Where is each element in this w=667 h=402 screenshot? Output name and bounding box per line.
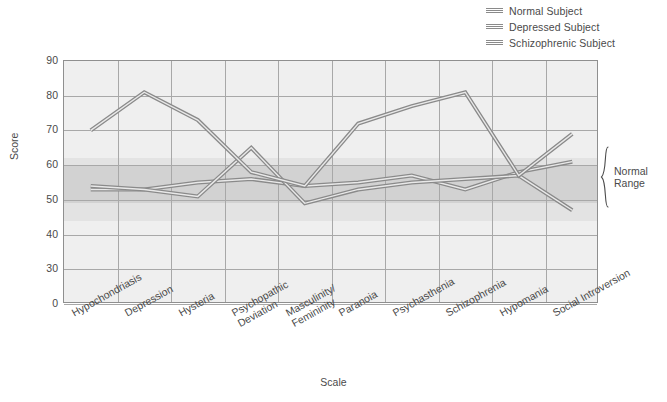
normal-range-label-line2: Range (614, 177, 648, 190)
legend-swatch-icon (486, 8, 503, 13)
legend-item: Normal Subject (486, 4, 615, 17)
series-line-inner (91, 92, 573, 186)
y-axis-tick-label: 30 (18, 262, 58, 274)
y-axis-tick-label: 70 (18, 123, 58, 135)
legend-label: Normal Subject (509, 5, 582, 17)
legend-item: Depressed Subject (486, 20, 615, 33)
x-axis-title: Scale (0, 376, 667, 388)
chart-legend: Normal Subject Depressed Subject Schizop… (486, 4, 615, 49)
series-lines (64, 61, 599, 304)
normal-range-label-line1: Normal (614, 165, 648, 178)
normal-range-label: Normal Range (614, 165, 648, 190)
y-axis-tick-label: 50 (18, 193, 58, 205)
y-axis-tick-label: 60 (18, 158, 58, 170)
legend-label: Depressed Subject (509, 21, 599, 33)
curly-brace-icon (600, 146, 610, 208)
legend-swatch-icon (486, 24, 503, 29)
legend-swatch-icon (486, 40, 503, 45)
legend-item: Schizophrenic Subject (486, 36, 615, 49)
y-axis-tick-label: 80 (18, 89, 58, 101)
y-axis-tick-label: 40 (18, 228, 58, 240)
plot-area (63, 60, 598, 303)
legend-label: Schizophrenic Subject (509, 37, 615, 49)
normal-range-annotation: Normal Range (600, 146, 648, 208)
y-axis-ticks: 908070605040300 (12, 60, 58, 303)
chart-root: Normal Subject Depressed Subject Schizop… (0, 0, 667, 402)
y-axis-tick-label: 0 (18, 297, 58, 309)
series-line-outer (91, 92, 573, 186)
y-axis-tick-label: 90 (18, 54, 58, 66)
